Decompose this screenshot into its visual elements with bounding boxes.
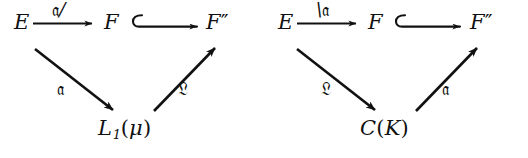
node-C-K-paren-close: ): [401, 116, 409, 140]
node-L1-mu-paren-close: ): [143, 116, 151, 140]
hooked-arrow-icon-F-to-Fpp: [133, 15, 197, 26]
fraktur-L-icon: 𝔏: [321, 79, 331, 99]
node-E-right: E: [278, 12, 294, 33]
edge-label-up-right-left-diagram: 𝔏: [178, 81, 188, 98]
slash-icon: /: [59, 0, 65, 20]
node-L1-mu-argument: μ: [129, 116, 143, 140]
fraktur-L-icon: 𝔏: [178, 79, 188, 99]
node-L1-mu-base: L: [98, 116, 112, 140]
node-L1-mu: L1(μ): [98, 118, 151, 139]
edge-label-top-right-diagram: \𝔞: [316, 0, 329, 19]
node-F-double-prime-left-base: F: [206, 10, 221, 34]
edge-label-down-left-diagram: 𝔞: [57, 81, 64, 98]
node-L1-mu-paren-open: (: [121, 116, 129, 140]
node-F-double-prime-right: F″: [470, 12, 492, 33]
fraktur-a-icon: 𝔞: [57, 79, 64, 99]
commutative-diagram-left: E F F″ L1(μ) 𝔞/ 𝔞 𝔏: [0, 0, 264, 158]
edge-label-down-right-diagram: 𝔏: [321, 81, 331, 98]
node-E-left: E: [14, 12, 30, 33]
edge-label-up-right-right-diagram: 𝔞: [442, 81, 449, 98]
fraktur-a-icon: 𝔞: [52, 0, 59, 20]
fraktur-a-icon: 𝔞: [322, 0, 329, 20]
node-C-K: C(K): [360, 118, 409, 139]
node-F-double-prime-right-primes: ″: [485, 10, 492, 34]
node-F-double-prime-left-primes: ″: [221, 10, 228, 34]
node-C-K-paren-open: (: [376, 116, 384, 140]
node-C-K-argument: K: [385, 116, 401, 140]
figure-canvas: E F F″ L1(μ) 𝔞/ 𝔞 𝔏: [0, 0, 528, 158]
node-C-K-base: C: [360, 116, 376, 140]
fraktur-a-icon: 𝔞: [442, 79, 449, 99]
node-F-double-prime-left: F″: [206, 12, 228, 33]
edge-label-top-left-diagram: 𝔞/: [52, 0, 65, 19]
commutative-diagram-right: E F F″ C(K) \𝔞 𝔏 𝔞: [264, 0, 528, 158]
arrow-E-to-CK: [297, 49, 375, 110]
node-F-double-prime-right-base: F: [470, 10, 485, 34]
hooked-arrow-icon-F-to-Fpp: [396, 15, 460, 26]
node-L1-mu-subscript: 1: [113, 127, 121, 142]
node-F-left: F: [104, 12, 119, 33]
node-F-right: F: [368, 12, 383, 33]
arrow-E-to-L1mu: [35, 49, 113, 110]
